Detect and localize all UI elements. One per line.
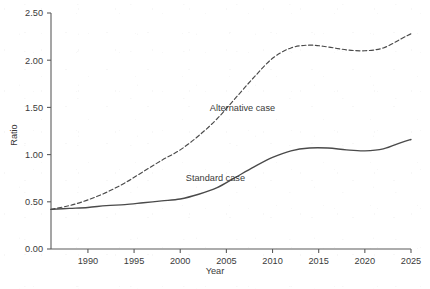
y-axis-tick-label: 0.00 — [25, 244, 43, 254]
chart-container: 0.000.501.001.502.002.50 199019952000200… — [0, 0, 430, 289]
y-axis-tick-label: 1.00 — [25, 150, 43, 160]
y-axis-tick-group: 0.000.501.001.502.002.50 — [25, 8, 51, 254]
series-annotation-standard-case: Standard case — [186, 173, 245, 183]
x-axis-tick-label: 2010 — [262, 256, 282, 266]
x-axis-tick-label: 2025 — [401, 256, 421, 266]
annotation-group: Alternative caseStandard case — [186, 103, 275, 183]
x-axis-tick-label: 2015 — [308, 256, 328, 266]
y-axis-tick-label: 1.50 — [25, 103, 43, 113]
y-axis-title: Ratio — [9, 124, 19, 145]
y-axis-tick-label: 0.50 — [25, 197, 43, 207]
x-axis-tick-group: 19901995200020052010201520202025 — [78, 249, 422, 266]
y-axis-tick-label: 2.00 — [25, 56, 43, 66]
x-axis-tick-label: 1990 — [78, 256, 98, 266]
x-axis-tick-label: 2005 — [216, 256, 236, 266]
x-axis-tick-label: 2000 — [170, 256, 190, 266]
series-annotation-alternative-case: Alternative case — [210, 103, 275, 113]
x-axis-tick-label: 1995 — [124, 256, 144, 266]
line-chart: 0.000.501.001.502.002.50 199019952000200… — [0, 0, 430, 289]
x-axis-title: Year — [206, 266, 225, 276]
y-axis-tick-label: 2.50 — [25, 8, 43, 18]
x-axis-tick-label: 2020 — [355, 256, 375, 266]
